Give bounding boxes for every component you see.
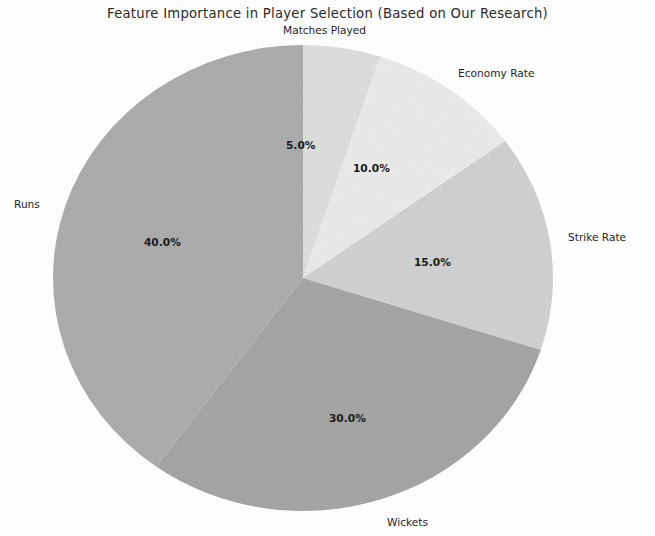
pie-percent-matches-played: 5.0% [286,139,315,151]
pie-chart-canvas [0,0,655,536]
pie-label-economy-rate: Economy Rate [458,67,534,79]
pie-label-runs: Runs [14,198,40,210]
pie-chart-figure: Feature Importance in Player Selection (… [0,0,655,536]
pie-label-strike-rate: Strike Rate [568,231,626,243]
grain-overlay [0,0,655,536]
pie-percent-wickets: 30.0% [329,412,366,424]
pie-label-wickets: Wickets [387,516,428,528]
pie-percent-economy-rate: 10.0% [353,162,390,174]
pie-percent-strike-rate: 15.0% [414,256,451,268]
pie-label-matches-played: Matches Played [283,24,366,36]
pie-percent-runs: 40.0% [144,236,181,248]
